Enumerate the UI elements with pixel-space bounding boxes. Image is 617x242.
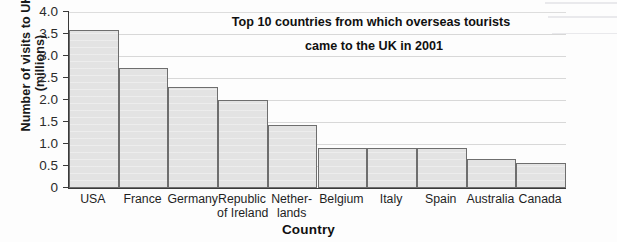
scan-artifact-line <box>545 2 617 4</box>
bar-chart-figure: Number of visits to UK (millions) 00.51.… <box>0 0 617 242</box>
y-tick-label: 3.0 <box>39 50 58 62</box>
x-tick-label-line: Republic <box>217 192 267 206</box>
bar <box>119 68 169 188</box>
bar-fill <box>418 149 466 187</box>
x-tick-label: Republicof Ireland <box>217 192 267 220</box>
x-tick-label: Belgium <box>317 192 367 206</box>
bar-fill <box>319 149 367 187</box>
bar-fill <box>219 101 267 187</box>
y-tick-label: 2.5 <box>39 72 58 84</box>
x-axis-tick-labels: USAFranceGermanyRepublicof IrelandNether… <box>68 192 565 226</box>
bar-fill <box>368 149 416 187</box>
x-tick-label: Spain <box>416 192 466 206</box>
bar <box>218 100 268 188</box>
y-axis-tick-labels: 00.51.01.52.02.53.03.54.0 <box>0 0 68 200</box>
bar-fill <box>120 69 168 187</box>
x-tick-label: Nether-lands <box>267 192 317 220</box>
bar <box>467 159 517 188</box>
x-tick-label: Canada <box>515 192 565 206</box>
bar-fill <box>169 88 217 187</box>
x-tick-label-line: Nether- <box>267 192 317 206</box>
bar-fill <box>468 160 516 187</box>
bar <box>168 87 218 188</box>
y-tick-label: 3.5 <box>39 28 58 40</box>
x-tick-label-line: USA <box>68 192 118 206</box>
bar-fill <box>269 126 317 187</box>
y-tick-label: 1.5 <box>39 116 58 128</box>
chart-title-line2: came to the UK in 2001 <box>196 34 546 58</box>
bar <box>268 125 318 188</box>
x-tick-label: Germany <box>167 192 217 206</box>
x-axis-title: Country <box>0 222 617 237</box>
x-tick-label-line: Belgium <box>317 192 367 206</box>
x-tick-label: Australia <box>466 192 516 206</box>
bar <box>367 148 417 188</box>
x-tick-label-line: Germany <box>167 192 217 206</box>
x-tick-label: USA <box>68 192 118 206</box>
chart-title: Top 10 countries from which overseas tou… <box>196 10 546 58</box>
bar <box>516 163 566 188</box>
chart-title-line1: Top 10 countries from which overseas tou… <box>196 10 546 34</box>
y-tick-label: 2.0 <box>39 94 58 106</box>
x-tick-label: Italy <box>366 192 416 206</box>
bar-fill <box>517 164 565 187</box>
y-tick-label: 0.5 <box>39 160 58 172</box>
x-tick-label-line: lands <box>267 206 317 220</box>
y-tick-label: 1.0 <box>39 138 58 150</box>
bar <box>69 30 119 188</box>
y-tick-label: 4.0 <box>39 6 58 18</box>
x-tick-label-line: of Ireland <box>217 206 267 220</box>
x-tick-label: France <box>118 192 168 206</box>
x-tick-label-line: Australia <box>466 192 516 206</box>
bar <box>417 148 467 188</box>
y-tick-label: 0 <box>50 182 58 194</box>
bar-fill <box>70 31 118 187</box>
bar <box>318 148 368 188</box>
x-tick-label-line: Spain <box>416 192 466 206</box>
x-tick-label-line: France <box>118 192 168 206</box>
x-tick-label-line: Canada <box>515 192 565 206</box>
x-tick-label-line: Italy <box>366 192 416 206</box>
